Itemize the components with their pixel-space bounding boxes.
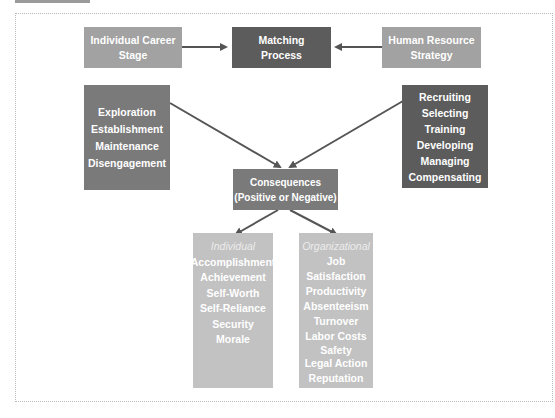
activity-item: Compensating — [409, 169, 482, 185]
organizational-item: Absenteeism — [303, 299, 368, 314]
hr-activities-list: Recruiting Selecting Training Developing… — [402, 85, 488, 188]
activity-item: Developing — [417, 137, 474, 153]
consequences-line2: (Positive or Negative) — [234, 190, 336, 205]
individual-item: Morale — [216, 332, 250, 348]
individual-item: Security — [212, 317, 253, 333]
career-stage-line2: Stage — [119, 48, 148, 63]
individual-outcomes-box: Individual Accomplishment Achievement Se… — [193, 233, 273, 388]
hr-strategy-box: Human Resource Strategy — [382, 27, 481, 68]
career-stage-box: Individual Career Stage — [84, 27, 182, 68]
stage-item: Establishment — [91, 121, 163, 138]
matching-process-box: Matching Process — [232, 27, 331, 68]
top-bar — [15, 0, 90, 3]
stage-item: Disengagement — [88, 155, 166, 172]
individual-item: Self-Reliance — [200, 301, 266, 317]
organizational-item: Reputation — [309, 371, 364, 386]
matching-line1: Matching — [258, 33, 304, 48]
career-stages-list: Exploration Establishment Maintenance Di… — [84, 85, 170, 190]
hr-strategy-line1: Human Resource — [388, 33, 474, 48]
organizational-heading: Organizational — [302, 239, 370, 254]
consequences-line1: Consequences — [250, 175, 321, 190]
activity-item: Managing — [421, 153, 470, 169]
matching-line2: Process — [261, 48, 302, 63]
stage-item: Exploration — [98, 104, 156, 121]
hr-strategy-line2: Strategy — [410, 48, 452, 63]
stage-item: Maintenance — [95, 138, 159, 155]
individual-item: Achievement — [200, 270, 265, 286]
consequences-box: Consequences (Positive or Negative) — [233, 169, 338, 210]
organizational-item: Productivity — [306, 284, 367, 299]
activity-item: Training — [425, 121, 466, 137]
organizational-item: Job Satisfaction — [299, 254, 373, 284]
organizational-item: Legal Action — [305, 356, 368, 371]
individual-item: Self-Worth — [207, 286, 260, 302]
organizational-item: Turnover — [314, 314, 359, 329]
organizational-item: Safety — [320, 344, 352, 356]
activity-item: Selecting — [422, 105, 469, 121]
individual-item: Accomplishment — [191, 255, 276, 271]
organizational-item: Labor Costs — [305, 329, 366, 344]
individual-heading: Individual — [211, 239, 255, 255]
career-stage-line1: Individual Career — [90, 33, 175, 48]
activity-item: Recruiting — [419, 89, 471, 105]
organizational-outcomes-box: Organizational Job Satisfaction Producti… — [299, 233, 373, 388]
